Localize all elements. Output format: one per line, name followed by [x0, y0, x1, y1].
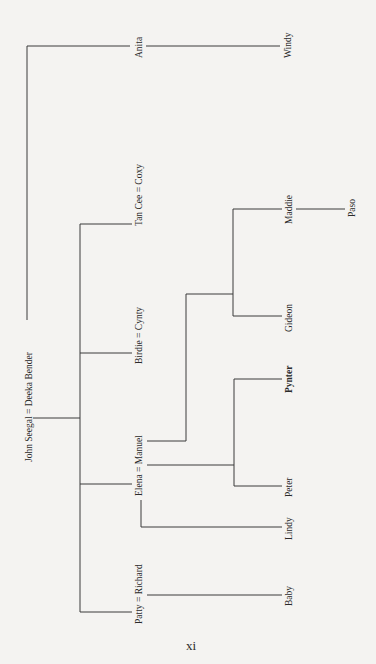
birdie-cynty-label: Birdie = Cynty [134, 307, 144, 364]
anita-label: Anita [134, 37, 144, 58]
page-number: xi [186, 638, 196, 654]
baby-label: Baby [284, 586, 294, 606]
peter-label: Peter [284, 477, 294, 497]
lindy-label: Lindy [284, 517, 294, 540]
paso-label: Paso [347, 199, 357, 217]
root-couple-label: John Seegal = Deeka Bender [24, 352, 34, 462]
tancee-coxy-label: Tan Cee = Coxy [134, 164, 144, 226]
pynter-label: Pynter [284, 366, 294, 393]
gideon-label: Gideon [284, 304, 294, 332]
maddie-label: Maddie [284, 195, 294, 224]
elena-manuel-label: Elena = Manuel [134, 435, 144, 496]
tree-connectors [0, 0, 376, 664]
patty-richard-label: Patty = Richard [134, 564, 144, 624]
windy-label: Windy [283, 33, 293, 58]
